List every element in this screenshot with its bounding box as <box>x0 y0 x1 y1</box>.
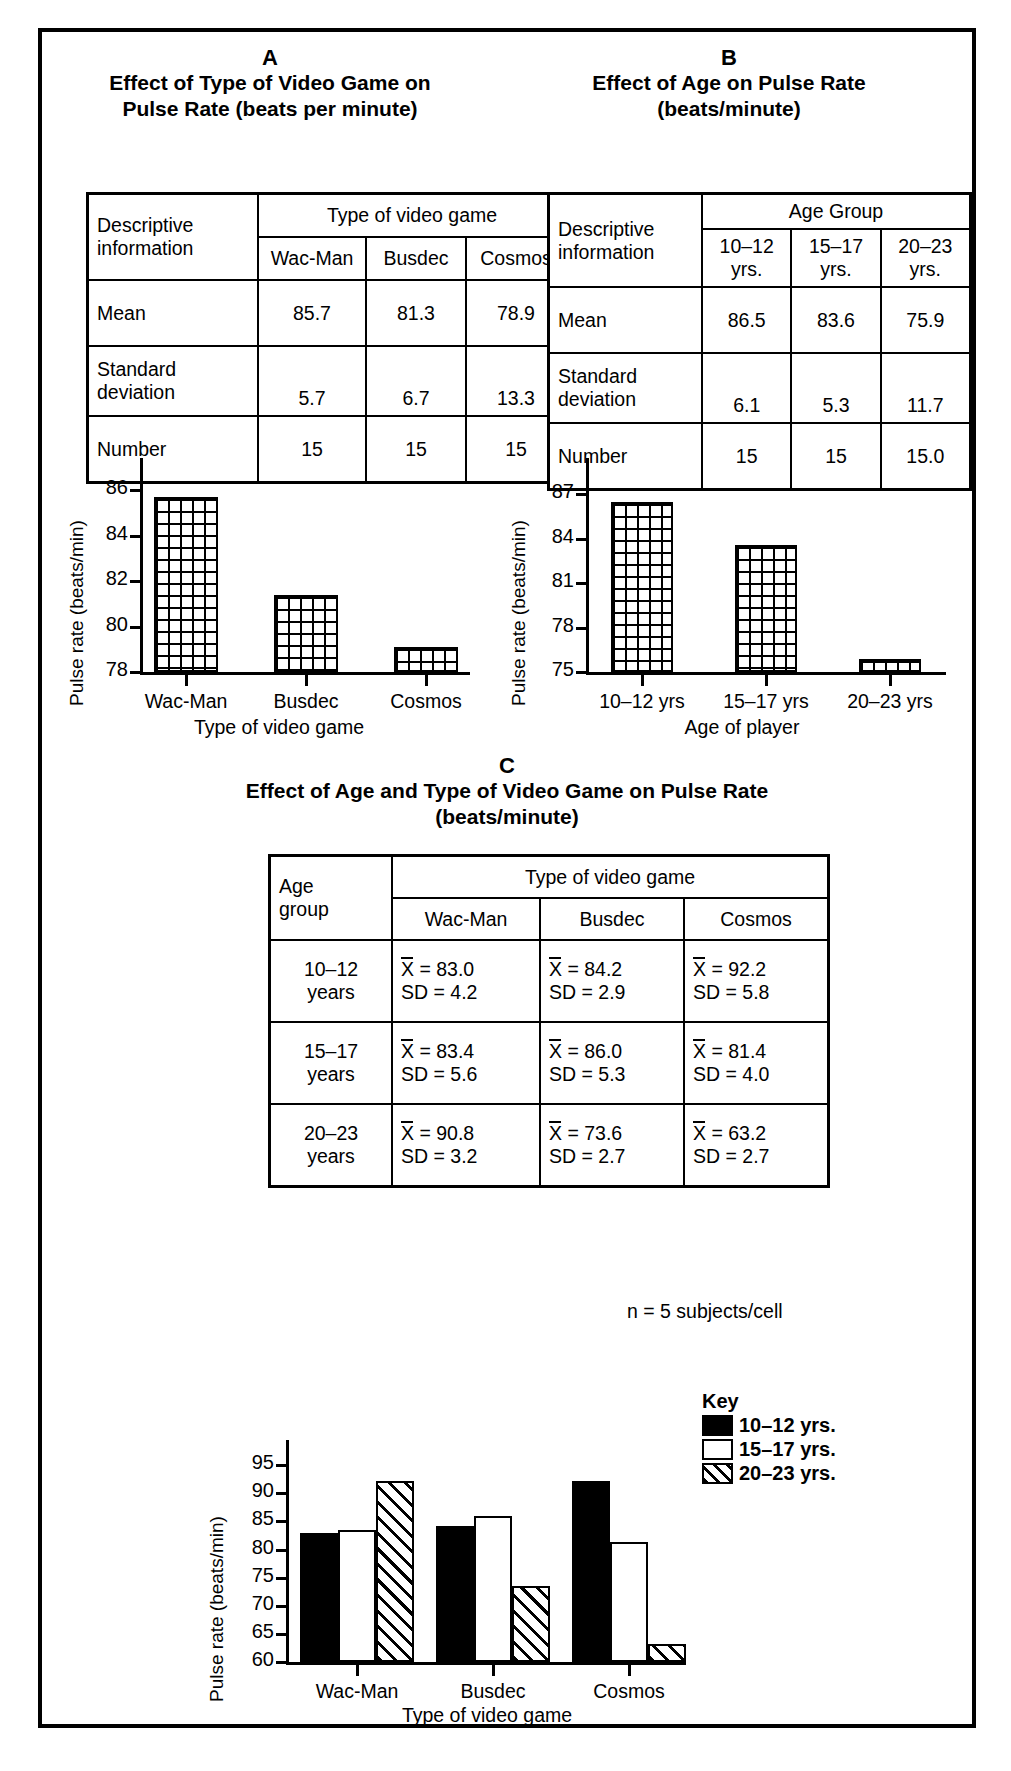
chart-b-root-y-axis <box>586 458 589 672</box>
table-c-cell-0-2: X = 92.2 SD = 5.8 <box>684 940 829 1022</box>
table-b-col-header-2: 20–23 yrs. <box>881 229 971 287</box>
panel-a-heading: A Effect of Type of Video Game on Pulse … <box>54 46 486 123</box>
chart-b-root-y-tickmark <box>576 493 587 496</box>
table-a-label-mean: Mean <box>88 280 259 346</box>
chart-c-root-y-tick-label: 95 <box>236 1451 274 1474</box>
mean-value: = 83.0 <box>419 958 474 980</box>
table-c-row-label-2-line1: 20–23 <box>279 1122 383 1145</box>
table-b-value-mean-2: 75.9 <box>881 287 971 353</box>
panel-c-letter: C <box>42 754 972 778</box>
table-row: Mean 85.7 81.3 78.9 <box>88 280 567 346</box>
table-c-cell-0-0: X = 83.0 SD = 4.2 <box>392 940 540 1022</box>
chart-c-root-bar <box>512 1586 550 1662</box>
chart-c-root-y-tickmark <box>276 1549 287 1552</box>
table-a-value-mean-0: 85.7 <box>258 280 366 346</box>
chart-b-root-x-tickmark <box>765 675 768 686</box>
key-label-2: 20–23 yrs. <box>739 1462 836 1485</box>
x-bar-symbol: X <box>549 1040 562 1063</box>
panel-c-title-line2: (beats/minute) <box>42 804 972 830</box>
panel-b-letter: B <box>494 46 964 70</box>
table-c-cell-2-0-mean: X = 90.8 <box>401 1122 531 1145</box>
x-bar-symbol: X <box>401 958 414 981</box>
chart-b-root-x-category-label: 20–23 yrs <box>800 690 980 713</box>
table-b-row-header-line1: Descriptive <box>558 218 693 241</box>
chart-c-root-y-tick-label: 90 <box>236 1479 274 1502</box>
table-a-value-sd-1: 6.7 <box>366 346 466 416</box>
table-c-cell-1-2-mean: X = 81.4 <box>693 1040 819 1063</box>
chart-a-root-x-tickmark <box>185 675 188 686</box>
chart-c-root-bar <box>338 1530 376 1662</box>
key-label-0: 10–12 yrs. <box>739 1414 836 1437</box>
table-b-value-sd-0: 6.1 <box>702 353 791 423</box>
panel-c-heading: C Effect of Age and Type of Video Game o… <box>42 754 972 831</box>
table-c-col-header-1: Busdec <box>540 898 684 940</box>
mean-value: = 81.4 <box>711 1040 766 1062</box>
mean-value: = 83.4 <box>419 1040 474 1062</box>
chart-a-root-y-tick-label: 84 <box>90 522 128 545</box>
table-a-label-sd-line2: deviation <box>97 381 249 404</box>
table-c-row-header: Age group <box>270 856 393 941</box>
table-panel-a: Descriptive information Type of video ga… <box>86 192 568 484</box>
table-row: Standard deviation 5.7 6.7 13.3 <box>88 346 567 416</box>
panel-c-title-line1: Effect of Age and Type of Video Game on … <box>42 778 972 804</box>
x-bar-symbol: X <box>693 958 706 981</box>
chart-b-root-x-tickmark <box>641 675 644 686</box>
table-c-cell-1-1-mean: X = 86.0 <box>549 1040 675 1063</box>
table-c-cell-1-1-sd: SD = 5.3 <box>549 1063 675 1086</box>
table-b-label-sd: Standard deviation <box>549 353 703 423</box>
mean-value: = 84.2 <box>567 958 622 980</box>
table-c-row-label-1-line2: years <box>279 1063 383 1086</box>
chart-b-root-y-tick-label: 81 <box>536 569 574 592</box>
chart-c-root-bar <box>300 1533 338 1662</box>
chart-c-x-axis-label: Type of video game <box>287 1704 687 1727</box>
x-bar-symbol: X <box>549 1122 562 1145</box>
x-bar-symbol: X <box>549 958 562 981</box>
chart-a-root-y-tick-label: 80 <box>90 613 128 636</box>
table-panel-c: Age group Type of video game Wac-Man Bus… <box>268 854 830 1188</box>
chart-c-root-bar <box>376 1481 414 1662</box>
chart-a-root-bar <box>154 497 218 672</box>
table-c-col-header-0: Wac-Man <box>392 898 540 940</box>
table-a-value-sd-0: 5.7 <box>258 346 366 416</box>
table-c-cell-0-2-mean: X = 92.2 <box>693 958 819 981</box>
chart-b-root-y-tickmark <box>576 538 587 541</box>
panel-a-title-line2: Pulse Rate (beats per minute) <box>54 96 486 122</box>
mean-value: = 92.2 <box>711 958 766 980</box>
table-b-row-header: Descriptive information <box>549 194 703 288</box>
chart-b-root-y-tick-label: 75 <box>536 658 574 681</box>
panel-b-title-line2: (beats/minute) <box>494 96 964 122</box>
chart-panel-c: Pulse rate (beats/min) Type of video gam… <box>192 1432 752 1732</box>
table-c-cell-2-1-sd: SD = 2.7 <box>549 1145 675 1168</box>
chart-b-root-bar <box>611 502 673 672</box>
chart-panel-b: Pulse rate (beats/min) Age of player 757… <box>492 444 962 744</box>
chart-a-root-y-tickmark <box>130 489 141 492</box>
chart-c-root-y-tickmark <box>276 1661 287 1664</box>
table-c-row-label-2: 20–23 years <box>270 1104 393 1187</box>
table-b-col-header-1: 15–17 yrs. <box>791 229 880 287</box>
table-c-cell-2-1-mean: X = 73.6 <box>549 1122 675 1145</box>
table-c-cell-0-0-mean: X = 83.0 <box>401 958 531 981</box>
chart-a-root-x-tickmark <box>425 675 428 686</box>
x-bar-symbol: X <box>693 1122 706 1145</box>
table-b-col-header-0-line1: 10–12 <box>711 235 782 258</box>
table-row: Standard deviation 6.1 5.3 11.7 <box>549 353 971 423</box>
chart-c-root-y-tickmark <box>276 1520 287 1523</box>
chart-c-key-title: Key <box>702 1390 836 1413</box>
table-c-row-header-line1: Age <box>279 875 383 898</box>
table-c-cell-2-1: X = 73.6 SD = 2.7 <box>540 1104 684 1187</box>
chart-c-root-bar <box>572 1481 610 1662</box>
table-b-value-sd-1: 5.3 <box>791 353 880 423</box>
chart-a-root-y-tick-label: 78 <box>90 658 128 681</box>
chart-b-root-y-tick-label: 78 <box>536 614 574 637</box>
chart-b-root-y-tick-label: 87 <box>536 480 574 503</box>
table-c-group-header: Type of video game <box>392 856 829 899</box>
chart-c-root-y-tick-label: 80 <box>236 1536 274 1559</box>
table-a-label-sd-line1: Standard <box>97 358 249 381</box>
chart-c-root-x-axis <box>286 1662 686 1665</box>
panel-a-title-line1: Effect of Type of Video Game on <box>54 70 486 96</box>
chart-a-root-y-tickmark <box>130 535 141 538</box>
table-a-row-header: Descriptive information <box>88 194 259 281</box>
table-b-row-header-line2: information <box>558 241 693 264</box>
table-a-label-sd: Standard deviation <box>88 346 259 416</box>
chart-b-x-axis-label: Age of player <box>552 716 932 739</box>
